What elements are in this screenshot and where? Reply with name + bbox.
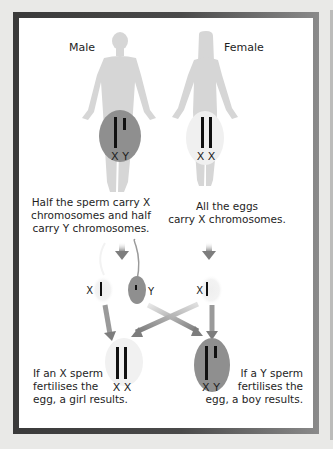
svg-text:If a Y sperm: If a Y sperm xyxy=(240,367,303,379)
svg-text:fertilises the: fertilises the xyxy=(238,380,303,392)
svg-text:carry Y chromosomes.: carry Y chromosomes. xyxy=(33,222,150,234)
sperm-down-arrow xyxy=(115,242,129,260)
x-sperm-tail xyxy=(100,243,105,275)
svg-text:carry X chromosomes.: carry X chromosomes. xyxy=(168,213,286,225)
egg-to-boy-arrow xyxy=(206,305,218,340)
svg-text:All the eggs: All the eggs xyxy=(196,200,258,212)
girl-x-chromosome-2 xyxy=(124,347,127,379)
male-y-chromosome xyxy=(123,118,126,130)
female-x-chromosome-2 xyxy=(209,117,212,148)
eggs-caption: All the eggs carry X chromosomes. xyxy=(168,200,286,225)
egg-down-arrow xyxy=(202,242,216,260)
boy-x-chromosome xyxy=(205,346,208,380)
svg-text:If an X sperm: If an X sperm xyxy=(33,367,103,379)
y-sperm-chromosome xyxy=(135,285,137,290)
sperm-caption: Half the sperm carry X chromosomes and h… xyxy=(31,196,151,234)
x-sperm-to-girl-arrow xyxy=(104,305,116,341)
svg-text:egg, a boy results.: egg, a boy results. xyxy=(206,393,303,405)
x-sperm-cell xyxy=(92,276,114,304)
diagram-canvas: X Y Male X X Female Half the sperm carry… xyxy=(0,0,333,449)
y-sperm-label: Y xyxy=(147,286,155,297)
svg-text:Half the sperm carry X: Half the sperm carry X xyxy=(32,196,151,208)
egg-to-girl-arrow xyxy=(131,304,198,337)
svg-text:fertilises the: fertilises the xyxy=(33,380,98,392)
female-chromosome-label: X X xyxy=(197,150,216,163)
egg-label: X xyxy=(196,285,203,296)
svg-text:egg, a girl results.: egg, a girl results. xyxy=(33,393,128,405)
female-x-chromosome-1 xyxy=(201,117,204,148)
male-chromosome-label: X Y xyxy=(111,150,129,163)
girl-x-chromosome-1 xyxy=(116,347,119,379)
female-label: Female xyxy=(224,41,264,54)
boy-y-chromosome xyxy=(214,346,217,358)
y-sperm-tail xyxy=(134,240,139,280)
male-label: Male xyxy=(69,41,95,54)
svg-text:chromosomes and half: chromosomes and half xyxy=(31,209,151,221)
x-sperm-chromosome xyxy=(100,282,102,296)
x-sperm-label: X xyxy=(86,285,93,296)
male-x-chromosome xyxy=(114,117,117,148)
egg-chromosome xyxy=(206,282,208,296)
